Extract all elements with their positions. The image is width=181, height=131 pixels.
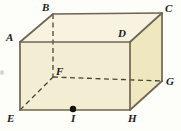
vertex-label-c: C: [165, 3, 172, 14]
faces-group: [20, 13, 162, 110]
scan-artifact-mark: [0, 70, 4, 75]
vertex-label-f: F: [56, 66, 63, 77]
geometry-figure-rectangular-prism: ABCDEFGHI: [0, 0, 181, 131]
vertex-label-a: A: [6, 32, 13, 43]
vertex-label-d: D: [118, 28, 126, 39]
vertex-label-g: G: [166, 76, 174, 87]
vertex-label-e: E: [7, 113, 14, 124]
face-ADHE: [20, 42, 130, 110]
vertex-label-b: B: [42, 2, 49, 13]
prism-drawing: [0, 0, 181, 131]
vertex-label-h: H: [128, 113, 137, 124]
edge-BC: [53, 13, 162, 14]
vertex-label-i: I: [71, 113, 75, 124]
